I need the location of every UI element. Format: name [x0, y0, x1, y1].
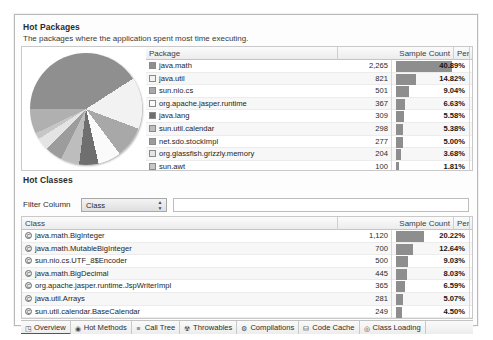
table-row[interactable]: net.sdo.stockImpl2775.00%	[146, 136, 472, 149]
percentage-cell: 5.38%	[408, 123, 470, 136]
table-row[interactable]: Cjava.util.TreeMap2444.41%	[22, 318, 472, 319]
row-label: Csun.util.calendar.BaseCalendar	[25, 306, 365, 319]
color-swatch-icon	[149, 100, 156, 107]
tab-throwables[interactable]: ☢Throwables	[180, 321, 237, 334]
percentage-bar	[396, 86, 409, 97]
class-icon: C	[25, 282, 32, 289]
tab-hot-methods[interactable]: ◉Hot Methods	[71, 321, 132, 334]
gear-icon: ⚙	[240, 325, 248, 333]
percentage-bar	[396, 124, 403, 135]
tab-overview[interactable]: ◳Overview	[21, 321, 71, 334]
sample-count-cell: 298	[326, 123, 392, 136]
percentage-bar	[396, 294, 403, 305]
table-row[interactable]: java.math2,26540.89%	[146, 60, 472, 73]
hot-packages-title: Hot Packages	[23, 22, 80, 32]
bottom-tab-bar[interactable]: ◳Overview◉Hot Methods≡Call Tree☢Throwabl…	[21, 320, 473, 334]
color-swatch-icon	[149, 112, 156, 119]
column-header[interactable]: Class	[22, 217, 338, 230]
table-row[interactable]: Csun.nio.cs.UTF_8$Encoder5009.03%	[22, 255, 472, 268]
tab-label: Code Cache	[312, 323, 354, 332]
hot-packages-classes-panel: Hot Packages The packages where the appl…	[14, 14, 478, 326]
table-row[interactable]: Cjava.math.MutableBigInteger70012.64%	[22, 243, 472, 256]
row-name-text: sun.util.calendar.BaseCalendar	[35, 307, 140, 316]
color-swatch-icon	[149, 62, 156, 69]
table-row[interactable]: Csun.util.calendar.BaseCalendar2494.50%	[22, 306, 472, 319]
row-label: Csun.nio.cs.UTF_8$Encoder	[25, 255, 365, 268]
database-icon: ⛁	[302, 325, 310, 333]
percentage-bar	[396, 111, 404, 122]
table-row[interactable]: Corg.apache.jasper.runtime.JspWriterImpl…	[22, 280, 472, 293]
sample-count-cell: 249	[326, 306, 392, 319]
percentage-bar	[396, 137, 403, 148]
table-row[interactable]: org.apache.jasper.runtime3676.63%	[146, 98, 472, 111]
sample-count-cell: 501	[326, 85, 392, 98]
table-row[interactable]: Cjava.math.BigInteger1,12020.22%	[22, 230, 472, 243]
warning-icon: ☢	[183, 325, 191, 333]
packages-table[interactable]: PackageSample CountPercentage java.math2…	[146, 47, 472, 170]
packages-table-header: PackageSample CountPercentage	[146, 47, 472, 60]
hot-packages-panel: PackageSample CountPercentage java.math2…	[21, 46, 473, 171]
table-row[interactable]: org.glassfish.grizzly.memory2043.68%	[146, 148, 472, 161]
percentage-cell: 8.03%	[408, 268, 470, 281]
tab-class-loading[interactable]: ◎Class Loading	[360, 321, 426, 334]
column-header[interactable]: Sample Count	[338, 217, 454, 230]
table-row[interactable]: sun.util.calendar2985.38%	[146, 123, 472, 136]
table-row[interactable]: java.util82114.82%	[146, 73, 472, 86]
filter-column-label: Filter Column	[23, 200, 71, 209]
column-header[interactable]: Package	[146, 47, 338, 60]
sample-count-cell: 2,265	[326, 60, 392, 73]
row-name-text: sun.awt	[159, 162, 185, 171]
table-row[interactable]: sun.awt1001.81%	[146, 161, 472, 171]
table-row[interactable]: Cjava.math.BigDecimal4458.03%	[22, 268, 472, 281]
sample-count-cell: 700	[326, 243, 392, 256]
tab-call-tree[interactable]: ≡Call Tree	[132, 321, 180, 334]
percentage-cell: 5.07%	[408, 293, 470, 306]
table-row[interactable]: Cjava.util.Arrays2815.07%	[22, 293, 472, 306]
column-header[interactable]: Sample Count	[338, 47, 454, 60]
percentage-bar	[396, 162, 399, 171]
classes-table-body[interactable]: Cjava.math.BigInteger1,12020.22%Cjava.ma…	[22, 230, 472, 319]
color-swatch-icon	[149, 87, 156, 94]
row-name-text: java.math	[159, 61, 192, 70]
filter-row: Filter Column Class ▲▼	[23, 198, 469, 213]
packages-table-body[interactable]: java.math2,26540.89%java.util82114.82%su…	[146, 60, 472, 171]
sample-count-cell: 1,120	[326, 230, 392, 243]
row-name-text: org.glassfish.grizzly.memory	[159, 149, 254, 158]
package-pie-chart	[24, 49, 146, 169]
column-header[interactable]: Percentage	[454, 47, 470, 60]
tab-code-cache[interactable]: ⛁Code Cache	[299, 321, 359, 334]
color-swatch-icon	[149, 150, 156, 157]
percentage-bar	[396, 256, 408, 267]
sample-count-cell: 367	[326, 98, 392, 111]
row-name-text: sun.util.calendar	[159, 124, 214, 133]
percentage-cell: 5.58%	[408, 110, 470, 123]
row-name-text: net.sdo.stockImpl	[159, 137, 218, 146]
filter-column-value: Class	[86, 201, 105, 210]
row-name-text: java.math.BigInteger	[35, 231, 105, 240]
column-header[interactable]: Percentage	[454, 217, 470, 230]
sample-count-cell: 100	[326, 161, 392, 171]
sample-count-cell: 309	[326, 110, 392, 123]
row-name-text: java.math.MutableBigInteger	[35, 244, 132, 253]
row-name-text: org.apache.jasper.runtime	[159, 99, 247, 108]
color-swatch-icon	[149, 138, 156, 145]
table-row[interactable]: sun.nio.cs5019.04%	[146, 85, 472, 98]
row-label: Cjava.math.BigDecimal	[25, 268, 365, 281]
percentage-cell: 4.50%	[408, 306, 470, 319]
percentage-cell: 9.03%	[408, 255, 470, 268]
sample-count-cell: 445	[326, 268, 392, 281]
percentage-cell: 5.00%	[408, 136, 470, 149]
filter-text-input[interactable]	[173, 198, 469, 212]
tab-label: Hot Methods	[84, 323, 127, 332]
percentage-cell: 12.64%	[408, 243, 470, 256]
color-swatch-icon	[149, 75, 156, 82]
filter-column-select[interactable]: Class ▲▼	[81, 198, 167, 212]
classes-table[interactable]: ClassSample CountPercentage Cjava.math.B…	[22, 217, 472, 318]
class-icon: C	[25, 232, 32, 239]
table-row[interactable]: java.lang3095.58%	[146, 110, 472, 123]
percentage-bar	[396, 269, 407, 280]
row-label: Cjava.util.TreeMap	[25, 318, 365, 319]
percentage-bar	[396, 307, 402, 318]
row-name-text: java.math.BigDecimal	[35, 269, 108, 278]
tab-compilations[interactable]: ⚙Compilations	[237, 321, 299, 334]
